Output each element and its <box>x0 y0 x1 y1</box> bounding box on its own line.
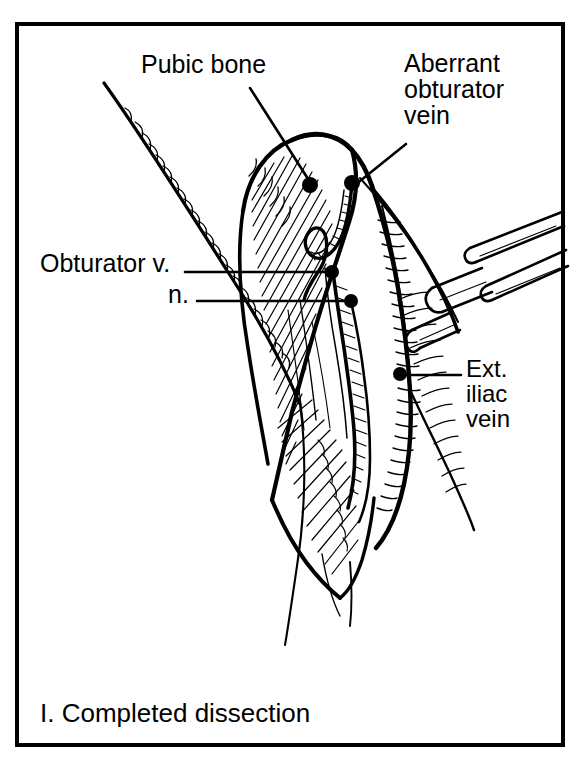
marker-aberrant-obturator-vein <box>344 175 360 191</box>
label-pubic-bone: Pubic bone <box>141 51 266 77</box>
figure-caption: I. Completed dissection <box>40 698 310 729</box>
label-aberrant-line-1: Aberrant <box>404 49 500 77</box>
marker-pubic-bone <box>302 177 318 193</box>
label-aberrant-line-2: obturator <box>404 75 504 103</box>
figure-root: Pubic bone Aberrantobturatorvein Obturat… <box>0 0 579 764</box>
label-aberrant-obturator-vein: Aberrantobturatorvein <box>404 50 504 128</box>
label-obturator-vein: Obturator v. <box>40 250 170 276</box>
label-aberrant-line-3: vein <box>404 101 450 129</box>
label-ext-iliac-line-2: iliac <box>466 380 507 407</box>
marker-ext-iliac-vein <box>393 367 407 381</box>
label-ext-iliac-vein: Ext.iliacvein <box>466 357 510 432</box>
marker-obturator-vein <box>325 265 339 279</box>
label-obturator-nerve: n. <box>168 281 189 307</box>
label-ext-iliac-line-1: Ext. <box>466 355 507 382</box>
label-ext-iliac-line-3: vein <box>466 405 510 432</box>
marker-obturator-nerve <box>344 294 358 308</box>
